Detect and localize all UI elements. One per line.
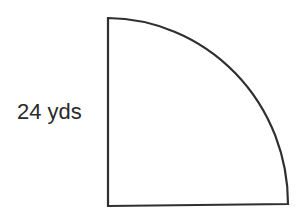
radius-label: 24 yds: [17, 101, 82, 123]
quarter-circle-shape: [108, 18, 288, 206]
